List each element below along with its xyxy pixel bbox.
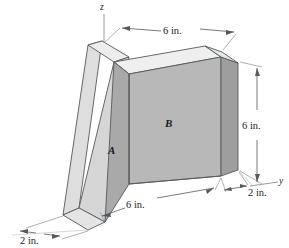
block-face-b bbox=[129, 57, 221, 184]
top-dim-ext-left bbox=[104, 28, 120, 43]
bl-dim-arrow-right bbox=[52, 234, 60, 239]
y-axis-label: y bbox=[278, 176, 284, 186]
top-dim-ext-right bbox=[223, 34, 236, 50]
bl-dim-ext-left bbox=[26, 216, 63, 228]
top-dim-arrow-left bbox=[122, 26, 130, 31]
bottom-dim-line-right bbox=[157, 188, 214, 198]
figure-container: z y bbox=[0, 0, 289, 248]
face-label-b: B bbox=[164, 117, 172, 129]
ground-line-right bbox=[238, 170, 252, 185]
bottom-dim-ext-right bbox=[215, 178, 221, 190]
y-axis-line bbox=[250, 182, 278, 186]
right-dim-label: 6 in. bbox=[242, 120, 261, 131]
block-right-face bbox=[221, 57, 238, 176]
right-dim-arrow-top bbox=[255, 68, 260, 76]
bl-dim-ext-right bbox=[62, 231, 88, 239]
br-dim-ext-right bbox=[239, 172, 248, 185]
top-dim-arrow-right bbox=[226, 30, 234, 35]
top-dim-label: 6 in. bbox=[163, 25, 182, 36]
right-dim-ext-top bbox=[240, 62, 262, 67]
right-dim-arrow-bottom bbox=[255, 174, 260, 182]
right-dim-ext-bottom bbox=[240, 171, 262, 184]
bl-dim-label: 2 in. bbox=[20, 235, 39, 246]
br-dim-label: 2 in. bbox=[248, 187, 267, 198]
br-dim-arrow-right bbox=[240, 184, 247, 188]
isometric-figure: z y bbox=[0, 0, 289, 248]
dimension-right-height: 6 in. bbox=[240, 62, 262, 184]
z-axis-label: z bbox=[99, 2, 104, 12]
bottom-dim-label: 6 in. bbox=[126, 199, 145, 210]
solid-body bbox=[63, 41, 238, 230]
face-label-a: A bbox=[107, 144, 115, 156]
dimension-top-width: 6 in. bbox=[104, 25, 236, 50]
